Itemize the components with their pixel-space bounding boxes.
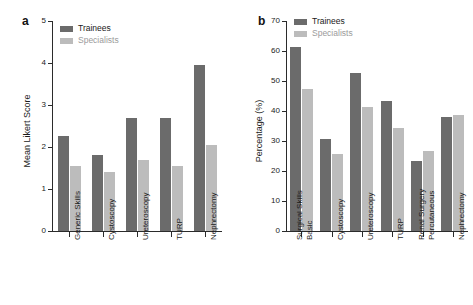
y-tick-mark <box>282 111 286 112</box>
bar-specialists <box>393 128 404 232</box>
x-tick-mark <box>103 232 104 237</box>
bar-trainees <box>126 118 137 231</box>
panel-a-legend: Trainees Specialists <box>60 24 119 45</box>
x-tick-label: Ureteroscopy <box>366 192 375 240</box>
legend-item-trainees: Trainees <box>60 24 119 33</box>
panel-a-y-axis <box>52 21 53 232</box>
legend-label-trainees: Trainees <box>78 24 111 33</box>
y-tick-label: 30 <box>271 137 280 145</box>
x-tick-mark <box>69 232 70 237</box>
y-tick-label: 0 <box>276 227 280 235</box>
panel-a: a Mean Likert Score 012345Generic Skills… <box>0 0 236 305</box>
panel-b-y-axis <box>286 21 287 232</box>
x-tick-mark <box>362 232 363 237</box>
x-tick-label: Cystoscopy <box>107 199 116 240</box>
y-tick-mark <box>282 21 286 22</box>
x-tick-label: Percutaneous <box>427 191 436 240</box>
y-tick-mark <box>282 231 286 232</box>
y-tick-label: 10 <box>271 197 280 205</box>
panel-a-y-axis-title: Mean Likert Score <box>22 91 32 171</box>
bar-trainees <box>320 139 331 231</box>
figure-root: a Mean Likert Score 012345Generic Skills… <box>0 0 473 305</box>
x-tick-mark <box>171 232 172 237</box>
x-tick-label: Generic Skills <box>73 191 82 240</box>
y-tick-mark <box>48 105 52 106</box>
panel-a-letter: a <box>22 14 29 28</box>
panel-b-letter: b <box>258 14 265 28</box>
legend-label-trainees: Trainees <box>312 17 345 26</box>
bar-trainees <box>92 155 103 231</box>
bar-group <box>381 21 404 231</box>
x-tick-mark <box>392 232 393 237</box>
y-tick-label: 1 <box>42 185 46 193</box>
legend-item-trainees: Trainees <box>294 17 353 26</box>
panel-a-plot-area: 012345Generic SkillsCystoscopyUreterosco… <box>52 21 222 232</box>
legend-swatch-specialists-icon <box>60 38 73 44</box>
x-tick-label: Basic <box>305 220 314 240</box>
y-tick-label: 0 <box>42 227 46 235</box>
panel-b-legend: Trainees Specialists <box>294 17 353 38</box>
legend-swatch-trainees-icon <box>294 19 307 25</box>
y-tick-label: 5 <box>42 17 46 25</box>
y-tick-mark <box>282 81 286 82</box>
y-tick-mark <box>48 147 52 148</box>
y-tick-mark <box>282 51 286 52</box>
panel-b-y-axis-title: Percentage (%) <box>254 91 264 171</box>
x-tick-label: Nephrectomy <box>457 192 466 240</box>
x-tick-label: Cystoscopy <box>336 199 345 240</box>
x-tick-mark <box>453 232 454 237</box>
y-tick-label: 3 <box>42 101 46 109</box>
x-tick-mark <box>205 232 206 237</box>
bar-trainees <box>160 118 171 231</box>
y-tick-mark <box>48 189 52 190</box>
x-tick-mark <box>137 232 138 237</box>
legend-swatch-specialists-icon <box>294 31 307 37</box>
legend-item-specialists: Specialists <box>294 29 353 38</box>
bar-trainees <box>194 65 205 231</box>
x-tick-label: Renal Surgery <box>417 189 426 240</box>
y-tick-mark <box>282 171 286 172</box>
y-tick-mark <box>282 201 286 202</box>
bar-trainees <box>441 117 452 231</box>
y-tick-mark <box>48 63 52 64</box>
y-tick-label: 60 <box>271 47 280 55</box>
x-tick-label: TURP <box>396 218 405 240</box>
y-tick-label: 40 <box>271 107 280 115</box>
x-tick-label: Surgical Skills <box>295 190 304 240</box>
panel-b-plot-area: 010203040506070BasicSurgical SkillsCysto… <box>286 21 468 232</box>
y-tick-label: 50 <box>271 77 280 85</box>
y-tick-label: 2 <box>42 143 46 151</box>
x-tick-mark <box>332 232 333 237</box>
legend-label-specialists: Specialists <box>312 29 353 38</box>
bar-trainees <box>381 101 392 232</box>
legend-swatch-trainees-icon <box>60 26 73 32</box>
x-tick-label: Ureteroscopy <box>141 192 150 240</box>
y-tick-label: 20 <box>271 167 280 175</box>
y-tick-mark <box>48 231 52 232</box>
bar-group <box>160 21 183 231</box>
x-tick-label: Nephrectomy <box>209 192 218 240</box>
y-tick-mark <box>282 141 286 142</box>
y-tick-label: 4 <box>42 59 46 67</box>
legend-label-specialists: Specialists <box>78 36 119 45</box>
x-tick-label: TURP <box>175 218 184 240</box>
panel-b: b Percentage (%) 010203040506070BasicSur… <box>236 0 473 305</box>
bar-trainees <box>58 136 69 231</box>
legend-item-specialists: Specialists <box>60 36 119 45</box>
y-tick-label: 70 <box>271 17 280 25</box>
bar-trainees <box>350 73 361 231</box>
y-tick-mark <box>48 21 52 22</box>
